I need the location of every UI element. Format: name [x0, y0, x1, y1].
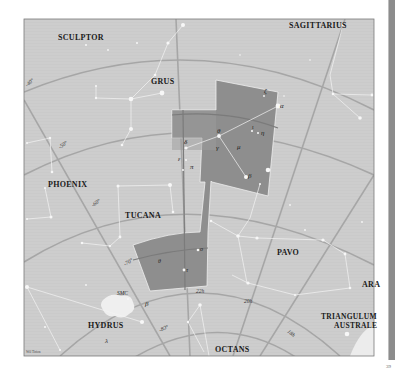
star-label-lambda: λ [104, 337, 108, 345]
label-smc: SMC [117, 290, 128, 296]
label-phoenix: PHOENIX [48, 180, 87, 189]
star-label-beta-hydrus: β [144, 300, 149, 308]
label-sculptor: SCULPTOR [58, 33, 104, 42]
star-label-eta: η [261, 129, 265, 137]
star-label-gamma: γ [216, 144, 219, 152]
star-label-pi: π [190, 163, 194, 171]
label-triangulum: TRIANGULUM [321, 312, 377, 321]
label-grus: GRUS [151, 77, 175, 86]
star-label-omicron: o [200, 246, 203, 252]
star-label-mu: μ [237, 143, 241, 151]
star-label-beta: β [247, 172, 252, 180]
side-bar [389, 0, 395, 360]
map-frame [24, 19, 374, 360]
label-hydrus: HYDRUS [88, 321, 124, 330]
label-octans: OCTANS [215, 345, 250, 354]
ra-label-20h: 20h [244, 298, 253, 304]
credit-text: Wil Tirion [26, 350, 41, 354]
label-sagittarius: SAGITTARIUS [289, 21, 347, 30]
label-australe: AUSTRALE [334, 321, 377, 330]
star-chart: SCULPTOR SAGITTARIUS GRUS PHOENIX TUCANA… [0, 0, 397, 371]
star-label-theta-tucana: θ [158, 258, 161, 264]
page-number: 39 [386, 364, 392, 369]
star-label-theta: θ [217, 127, 221, 135]
star-label-alpha: α [280, 102, 284, 110]
label-ara: ARA [362, 280, 380, 289]
label-pavo: PAVO [277, 248, 299, 257]
ra-label-22h: 22h [196, 288, 205, 294]
label-tucana: TUCANA [125, 211, 161, 220]
